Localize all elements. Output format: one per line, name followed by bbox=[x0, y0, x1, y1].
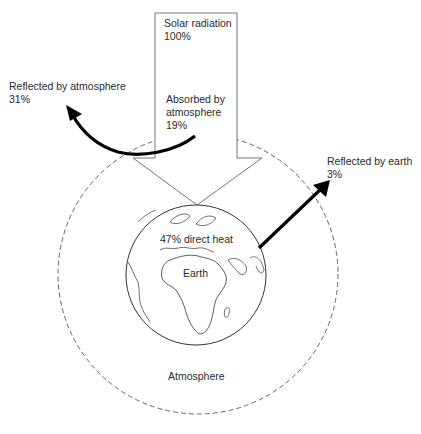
absorbed-text-line2: atmosphere bbox=[166, 106, 225, 119]
solar-radiation-label: Solar radiation 100% bbox=[164, 17, 232, 43]
energy-budget-diagram bbox=[0, 0, 421, 434]
reflected-earth-text: Reflected by earth bbox=[327, 155, 412, 168]
reflected-by-earth-label: Reflected by earth 3% bbox=[327, 155, 412, 181]
reflected-by-atmosphere-label: Reflected by atmosphere 31% bbox=[9, 80, 126, 106]
reflected-atmosphere-text: Reflected by atmosphere bbox=[9, 80, 126, 93]
solar-radiation-text: Solar radiation bbox=[164, 17, 232, 30]
reflected-earth-value: 3% bbox=[327, 168, 412, 181]
earth-label: Earth bbox=[183, 267, 208, 280]
absorbed-value: 19% bbox=[166, 119, 225, 132]
absorbed-by-atmosphere-label: Absorbed by atmosphere 19% bbox=[166, 93, 225, 132]
reflected-atmosphere-value: 31% bbox=[9, 93, 126, 106]
reflected-by-atmosphere-arrowhead bbox=[66, 105, 82, 121]
reflected-by-earth-arrow bbox=[259, 188, 322, 248]
solar-radiation-value: 100% bbox=[164, 30, 232, 43]
absorbed-text-line1: Absorbed by bbox=[166, 93, 225, 106]
direct-heat-label: 47% direct heat bbox=[160, 233, 233, 246]
atmosphere-label: Atmosphere bbox=[168, 370, 225, 383]
